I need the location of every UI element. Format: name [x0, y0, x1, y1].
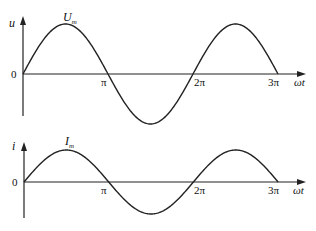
tick-3pi-lower: 3π: [268, 184, 280, 196]
tick-pi-lower: π: [101, 184, 107, 196]
sine-diagram: u 0 Um π 2π 3π ωt i 0 Im π 2π 3π ωt: [0, 0, 316, 231]
tick-pi-upper: π: [101, 76, 107, 88]
i-axis-arrow-icon: [21, 142, 27, 151]
origin-label-lower: 0: [12, 176, 18, 188]
u-axis-arrow-icon: [20, 16, 26, 25]
origin-label-upper: 0: [11, 68, 17, 80]
wt-axis-label-upper: ωt: [294, 76, 306, 88]
current-panel: i 0 Im π 2π 3π ωt: [12, 134, 306, 218]
peak-label-upper: Um: [63, 10, 77, 26]
tick-3pi-upper: 3π: [268, 76, 280, 88]
wt-axis-label-lower: ωt: [293, 184, 305, 196]
tick-2pi-lower: 2π: [194, 184, 206, 196]
peak-label-lower: Im: [64, 134, 74, 150]
tick-2pi-upper: 2π: [194, 76, 206, 88]
u-axis-label: u: [9, 16, 15, 30]
voltage-panel: u 0 Um π 2π 3π ωt: [9, 10, 306, 124]
i-axis-label: i: [12, 139, 15, 153]
